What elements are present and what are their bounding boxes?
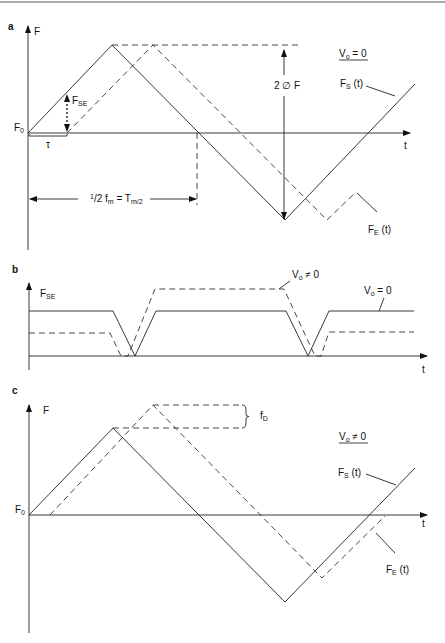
fs-label: FS (t) — [338, 467, 361, 479]
fs-leader — [366, 86, 395, 96]
fs-label: FS (t) — [340, 78, 363, 90]
tau-bracket — [29, 134, 67, 136]
t-axis-label: t — [422, 518, 425, 529]
fs-signal-line — [28, 45, 415, 220]
doppler-label: fD — [260, 410, 268, 422]
y-axis-label: F — [43, 405, 49, 416]
y-axis-label: F — [34, 26, 40, 37]
panel-b: b FSE t Vo ≠ 0 Vo = 0 — [12, 264, 427, 375]
panel-b-label: b — [12, 264, 18, 275]
fe-leader — [376, 533, 395, 553]
fe-label: FE (t) — [368, 224, 391, 236]
fse-dashed-trace — [29, 289, 414, 356]
amplitude-label: 2 ∅ F — [274, 80, 300, 91]
panel-a: a F t F0 2 ∅ F FSE τ 1/2 fm = Tm/2 Vo = … — [8, 21, 415, 250]
period-label: 1/2 fm = Tm/2 — [90, 193, 143, 205]
dashed-condition-label: Vo ≠ 0 — [292, 269, 320, 281]
fe-signal-line — [67, 45, 356, 220]
origin-label: F0 — [15, 504, 25, 516]
origin-label: F0 — [14, 122, 24, 134]
tau-label: τ — [46, 139, 50, 150]
solid-condition-leader — [379, 298, 384, 311]
fe-leader — [357, 193, 377, 212]
dashed-condition-leader — [279, 281, 290, 289]
panel-c: c F t F0 fD Vo ≠ 0 FS (t) FE (t) — [12, 385, 427, 633]
panel-a-label: a — [8, 21, 14, 32]
fe-signal-line — [50, 405, 385, 578]
solid-condition-label: Vo = 0 — [364, 285, 392, 297]
condition-label: Vo = 0 — [339, 48, 367, 60]
fs-leader — [366, 474, 396, 485]
t-axis-label: t — [422, 364, 425, 375]
fse-solid-trace — [29, 311, 414, 356]
condition-label: Vo ≠ 0 — [339, 431, 367, 443]
fse-label: FSE — [72, 95, 88, 107]
panel-c-label: c — [12, 385, 18, 396]
t-axis-label: t — [404, 140, 407, 151]
doppler-brace — [242, 405, 249, 428]
y-axis-label: FSE — [40, 288, 56, 300]
fe-label: FE (t) — [386, 564, 409, 576]
fmcw-radar-diagram: a F t F0 2 ∅ F FSE τ 1/2 fm = Tm/2 Vo = … — [0, 0, 445, 643]
